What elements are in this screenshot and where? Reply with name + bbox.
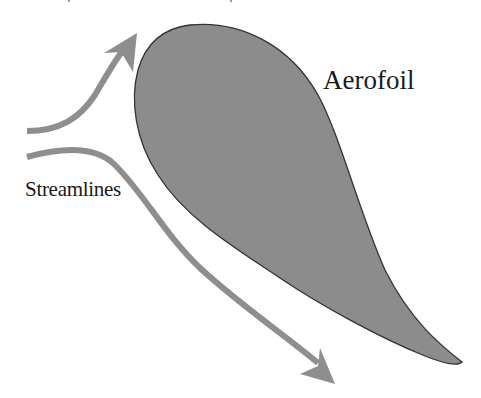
upper-streamline-arrow — [27, 49, 124, 131]
aerofoil-streamline-diagram: Aerofoil Streamlines — [0, 0, 481, 398]
aerofoil-label: Aerofoil — [323, 67, 414, 94]
streamlines-label: Streamlines — [25, 179, 121, 200]
